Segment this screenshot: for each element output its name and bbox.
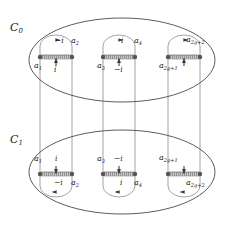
sheet-c1-arc-label-a1-a2: −i [54,179,63,187]
sheet-c0-ellipse [29,18,215,102]
sheet-c0-endpoint-label-a2: a2 [71,37,79,45]
sheet-c0-arc-label-a3-a4: i [121,37,123,45]
sheet-c1-arrow-label-a3-a4: −i [114,155,123,163]
sheet-c1-cut-a3-a4 [101,166,137,197]
sheet-c1-arc-label-a3-a4: i [120,179,122,187]
sheet-c0-endpoint-label-a1: a1 [34,62,42,70]
sheet-c0-endpoint-label-a4: a4 [134,37,142,45]
sheet-c1-endpoint-label-a3: a3 [97,155,105,163]
sheet-c1-dot-a2g1 [166,172,170,176]
sheet-c0-arrow-label-a1-a2: i [54,66,56,74]
sheet-c1-dot-a2 [70,172,74,176]
sheet-c0-dot-a2g2 [198,55,202,59]
sheet-c0-label: C0 [10,22,23,33]
sheet-c1-label: C1 [10,134,23,145]
sheet-c1-loop-a3-a4 [103,174,135,197]
sheet-c1-dot-a1 [38,172,42,176]
sheet-c0-cutbar-a3-a4 [104,55,134,59]
sheet-c0-endpoint-label-a2g1: a2g+1 [159,62,178,70]
sheet-c0-dot-a2g1 [166,55,170,59]
sheet-c0 [29,18,215,102]
sheet-c1-endpoint-label-a4: a4 [134,179,142,187]
sheet-c0-endpoint-label-a3: a3 [97,62,105,70]
sheet-c0-arc-label-a1-a2: −i [55,37,64,45]
sheet-c0-arrow-label-a3-a4: −i [114,66,123,74]
sheet-c1-endpoint-label-a2: a2 [71,179,79,187]
sheet-c1-endpoint-label-a2g2: a2g+2 [186,179,205,187]
sheet-c1 [29,130,215,214]
sheet-c1-endpoint-label-a2g1: a2g+1 [159,154,178,162]
sheet-c1-dot-a4 [133,172,137,176]
sheet-c1-dot-a2g2 [198,172,202,176]
figure-canvas [0,0,231,225]
sheet-c0-cut-a3-a4 [101,35,137,66]
branched-cover-figure: C0 C1 a1 a2 a3 a4 a2g+1 a2g+2 −i i i −i … [0,0,231,225]
sheet-c0-loop-a3-a4 [103,35,135,58]
sheet-c0-cutbar-a1-a2 [41,55,71,59]
sheet-c0-dot-a3 [101,55,105,59]
sheet-c1-dot-a3 [101,172,105,176]
sheet-c0-dot-a4 [133,55,137,59]
sheet-c1-arrow-label-a1-a2: i [55,155,57,163]
sheet-c0-endpoint-label-a2g2: a2g+2 [186,36,205,44]
sheet-c0-cutbar-a2g1-a2g2 [169,55,199,59]
sheet-c0-dot-a1 [38,55,42,59]
sheet-c1-endpoint-label-a1: a1 [34,155,42,163]
sheet-c0-dot-a2 [70,55,74,59]
